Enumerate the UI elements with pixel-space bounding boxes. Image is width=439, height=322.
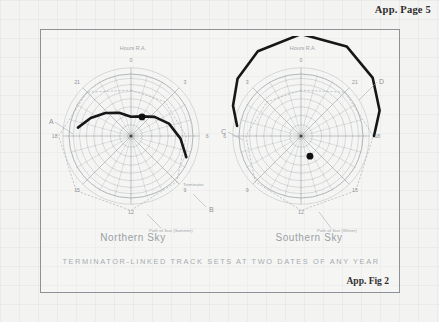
south-endpoint-label-d: D	[379, 78, 384, 85]
north-hour-tick-21: 21	[74, 79, 80, 85]
north-hour-tick-3: 3	[183, 79, 186, 85]
south-leader-lines	[228, 82, 377, 228]
northern-sky-title: Northern Sky	[43, 232, 223, 243]
north-hour-tick-0: 0	[130, 57, 133, 63]
south-leader-line	[319, 212, 331, 228]
north-hour-tick-15: 15	[74, 187, 80, 193]
north-axis-label: Hours R.A.	[120, 45, 146, 51]
south-hour-tick-6: 6	[223, 133, 226, 139]
north-leader-line	[193, 194, 206, 207]
south-hour-tick-15: 15	[352, 187, 358, 193]
south-hour-tick-12: 12	[298, 209, 304, 215]
north-leader-line	[147, 214, 161, 228]
north-endpoint-label-b: B	[209, 206, 214, 213]
south-polar-grid	[233, 68, 369, 204]
south-hour-tick-18: 18	[374, 133, 380, 139]
south-hour-tick-21: 21	[352, 79, 358, 85]
southern-sky-title: Southern Sky	[219, 232, 399, 243]
north-hour-tick-12: 12	[128, 209, 134, 215]
northern-sky-polar-svg: Hours R.A. A B Terminator Path of Sun (S…	[43, 36, 223, 254]
north-sun-marker	[139, 114, 146, 121]
figure-frame: Hours R.A. A B Terminator Path of Sun (S…	[40, 29, 400, 293]
chart-northern-sky: Hours R.A. A B Terminator Path of Sun (S…	[43, 36, 223, 254]
figure-number-label: App. Fig 2	[347, 276, 390, 286]
south-hour-tick-0: 0	[300, 57, 303, 63]
north-endpoint-label-a: A	[49, 118, 54, 125]
chart-southern-sky: Hours R.A. C D Path of Sun (Winter) 0369…	[219, 36, 399, 254]
south-axis-label: Hours R.A.	[290, 45, 316, 51]
north-hour-tick-9: 9	[183, 187, 186, 193]
scanned-page: App. Page 5 Hours R.A. A B Terminator Pa…	[0, 0, 439, 322]
north-hour-tick-6: 6	[206, 133, 209, 139]
north-hour-tick-18: 18	[52, 133, 58, 139]
south-sun-marker	[307, 153, 314, 160]
southern-sky-polar-svg: Hours R.A. C D Path of Sun (Winter) 0369…	[219, 36, 399, 254]
south-hour-tick-9: 9	[246, 187, 249, 193]
south-hour-tick-3: 3	[246, 79, 249, 85]
figure-caption: TERMINATOR-LINKED TRACK SETS AT TWO DATE…	[41, 257, 401, 266]
page-header-label: App. Page 5	[375, 4, 431, 15]
